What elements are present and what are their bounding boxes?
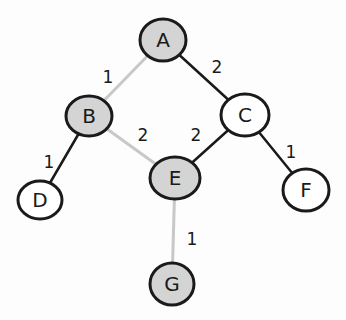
edge-weight-c-f: 1 <box>286 142 297 162</box>
node-label: C <box>238 103 252 127</box>
edge-weight-a-b: 1 <box>103 67 114 87</box>
node-c: C <box>221 94 269 136</box>
node-d: D <box>18 181 62 219</box>
node-label: G <box>164 272 180 296</box>
node-label: F <box>300 178 312 202</box>
graph-diagram: 1222111 ABCDEFG <box>0 0 346 320</box>
edge-weight-e-g: 1 <box>187 229 198 249</box>
node-label: E <box>169 166 182 190</box>
node-b: B <box>66 96 112 136</box>
node-label: D <box>32 188 47 212</box>
edge-weight-b-d: 1 <box>44 152 55 172</box>
edge-weight-c-e: 2 <box>191 125 202 145</box>
edge-weight-b-e: 2 <box>138 125 149 145</box>
edge-weight-a-c: 2 <box>212 57 223 77</box>
node-g: G <box>150 263 194 305</box>
node-f: F <box>283 169 329 211</box>
node-a: A <box>140 19 186 61</box>
weights-layer: 1222111 <box>44 57 297 249</box>
node-label: B <box>82 104 96 128</box>
node-label: A <box>156 28 170 52</box>
node-e: E <box>150 157 200 199</box>
